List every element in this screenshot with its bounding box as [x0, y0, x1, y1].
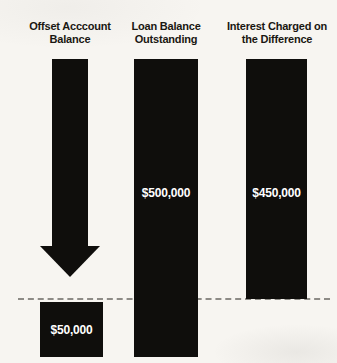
bar-interest-charged: $450,000	[246, 59, 307, 299]
loan-balance-value-label: $500,000	[134, 186, 198, 200]
interest-charged-value-label: $450,000	[246, 186, 307, 200]
column-header-offset-account: Offset Acccount Balance	[20, 20, 120, 46]
down-arrow-head	[40, 246, 100, 277]
offset-amount-value-label: $50,000	[51, 323, 93, 337]
column-header-interest-charged: Interest Charged on the Difference	[225, 20, 329, 46]
down-arrow-shaft	[52, 59, 88, 247]
bar-loan-balance: $500,000	[134, 59, 198, 357]
offset-amount-block: $50,000	[40, 302, 103, 357]
column-header-loan-balance: Loan Balance Outstanding	[116, 20, 216, 46]
offset-account-figure: Offset Acccount Balance Loan Balance Out…	[0, 0, 337, 363]
